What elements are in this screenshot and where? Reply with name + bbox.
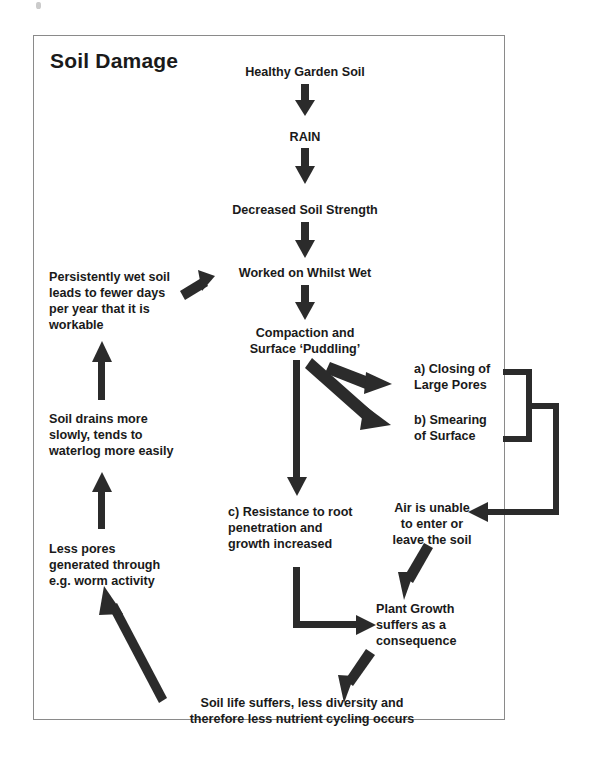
node-label-smearing-line-2: of Surface [414,429,476,443]
arrow-compaction-to-smearing [305,358,391,430]
figure-container: Soil Damage [0,0,598,767]
arrow-decreased-strength-to-worked-wet [295,222,315,258]
node-label-persistently-wet-line-2: leads to fewer days [49,286,165,300]
arrow-rain-to-decreased-strength [295,148,315,184]
node-label-healthy-garden-soil: Healthy Garden Soil [245,65,365,79]
node-label-less-pores-line-3: e.g. worm activity [49,574,155,588]
node-soil-life-suffers: Soil life suffers, less diversity and th… [190,696,415,726]
node-label-air-unable-line-3: leave the soil [392,533,471,547]
node-label-resistance-line-3: growth increased [228,537,332,551]
arrow-soil-life-to-less-pores [99,586,167,703]
node-resistance-to-root-penetration: c) Resistance to root penetration and gr… [228,505,353,551]
node-less-pores-generated: Less pores generated through e.g. worm a… [49,542,160,588]
arrow-persistently-wet-to-worked-wet [180,270,215,300]
node-label-air-unable-line-1: Air is unable [394,501,470,515]
node-soil-drains-more-slowly: Soil drains more slowly, tends to waterl… [48,412,174,458]
node-worked-on-whilst-wet: Worked on Whilst Wet [239,266,372,280]
node-label-closing-pores-line-1: a) Closing of [414,362,491,376]
node-label-closing-pores-line-2: Large Pores [414,378,487,392]
node-label-compaction-line-1: Compaction and [256,326,355,340]
node-smearing-of-surface: b) Smearing of Surface [414,413,487,443]
node-label-resistance-line-2: penetration and [228,521,322,535]
node-rain: RAIN [290,130,321,144]
arrow-plant-growth-to-soil-life [338,649,375,703]
node-label-smearing-line-1: b) Smearing [414,413,487,427]
node-label-soil-drains-line-1: Soil drains more [49,412,148,426]
connector-resistance-root-to-plant-growth [293,567,376,635]
node-healthy-garden-soil: Healthy Garden Soil [245,65,365,79]
node-label-less-pores-line-2: generated through [49,558,160,572]
node-label-less-pores-line-1: Less pores [49,542,116,556]
node-air-unable-to-enter-or-leave: Air is unable to enter or leave the soil [392,501,471,547]
arrow-healthy-soil-to-rain [295,84,315,116]
node-label-persistently-wet-line-4: workable [48,318,104,332]
node-label-resistance-line-1: c) Resistance to root [228,505,353,519]
node-label-soil-drains-line-2: slowly, tends to [49,428,143,442]
node-label-persistently-wet-line-1: Persistently wet soil [49,270,170,284]
arrow-less-pores-to-soil-drains [92,472,112,529]
node-compaction-surface-puddling: Compaction and Surface ‘Puddling’ [250,326,361,356]
node-label-plant-growth-line-1: Plant Growth [376,602,454,616]
arrow-air-unable-to-plant-growth [398,543,433,600]
node-label-soil-life-line-2: therefore less nutrient cycling occurs [190,712,415,726]
figure-title: Soil Damage [50,49,178,72]
node-label-air-unable-line-2: to enter or [401,517,463,531]
arrow-worked-wet-to-compaction [295,285,315,320]
arrow-soil-drains-to-persistently-wet [92,341,112,400]
arrow-compaction-to-resistance-root [287,360,307,496]
node-label-persistently-wet-line-3: per year that it is [49,302,150,316]
node-label-plant-growth-line-2: suffers as a [376,618,447,632]
node-label-plant-growth-line-3: consequence [376,634,457,648]
node-label-decreased-soil-strength: Decreased Soil Strength [232,203,378,217]
node-label-soil-drains-line-3: waterlog more easily [48,444,174,458]
node-decreased-soil-strength: Decreased Soil Strength [232,203,378,217]
flowchart-canvas: Soil Damage [0,0,598,767]
node-label-rain: RAIN [290,130,321,144]
node-persistently-wet-soil: Persistently wet soil leads to fewer day… [48,270,170,332]
node-plant-growth-suffers: Plant Growth suffers as a consequence [376,602,457,648]
node-label-worked-on-whilst-wet: Worked on Whilst Wet [239,266,372,280]
node-label-compaction-line-2: Surface ‘Puddling’ [250,342,361,356]
node-closing-of-large-pores: a) Closing of Large Pores [414,362,491,392]
node-label-soil-life-line-1: Soil life suffers, less diversity and [201,696,404,710]
connector-group [92,84,559,703]
